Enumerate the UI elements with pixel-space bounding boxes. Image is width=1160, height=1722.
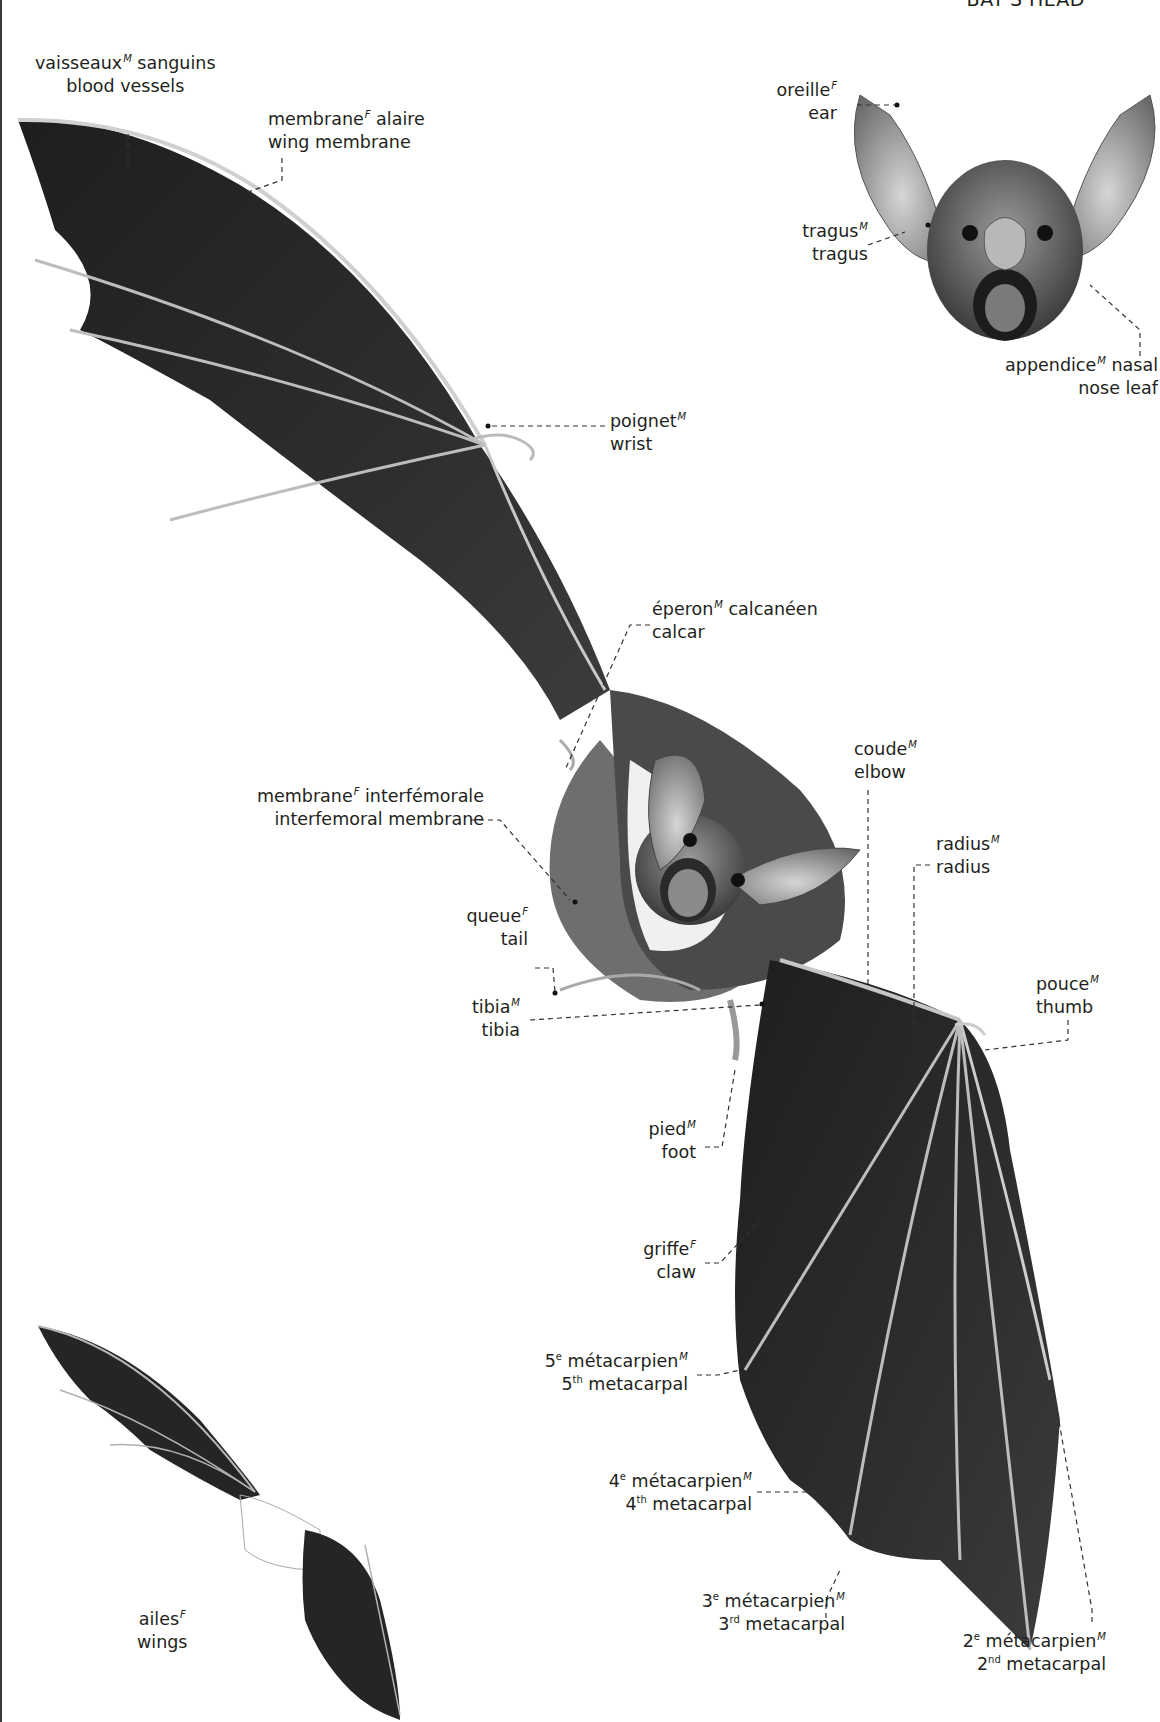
label-metacarpal-2: 2e métacarpienM 2nd metacarpal: [963, 1630, 1106, 1676]
label-wrist: poignetM wrist: [610, 410, 686, 456]
upper-wing: [18, 120, 610, 720]
label-calcar: éperonM calcanéen calcar: [652, 598, 818, 644]
label-claw: griffeF claw: [643, 1238, 696, 1284]
lower-wing: [735, 960, 1060, 1650]
bats-head-detail: [854, 95, 1155, 341]
label-ear: oreilleF ear: [777, 79, 837, 125]
label-foot: piedM foot: [649, 1118, 697, 1164]
label-nose-leaf: appendiceM nasal nose leaf: [1005, 354, 1158, 400]
label-metacarpal-4: 4e métacarpienM 4th metacarpal: [609, 1470, 752, 1516]
label-radius: radiusM radius: [936, 833, 1000, 879]
label-tragus: tragusM tragus: [802, 220, 868, 266]
label-wing-membrane: membraneF alaire wing membrane: [268, 108, 425, 154]
label-blood-vessels: vaisseauxM sanguins blood vessels: [35, 52, 216, 98]
label-metacarpal-5: 5e métacarpienM 5th metacarpal: [545, 1350, 688, 1396]
label-tail: queueF tail: [466, 905, 528, 951]
label-tibia: tibiaM tibia: [472, 996, 520, 1042]
label-interfemoral-membrane: membraneF interfémorale interfemoral mem…: [257, 785, 484, 831]
label-elbow: coudeM elbow: [854, 738, 917, 784]
label-wings: ailesF wings: [137, 1608, 188, 1654]
wings-overview: [38, 1326, 400, 1720]
label-thumb: pouceM thumb: [1036, 973, 1099, 1019]
label-metacarpal-3: 3e métacarpienM 3rd metacarpal: [702, 1590, 845, 1636]
